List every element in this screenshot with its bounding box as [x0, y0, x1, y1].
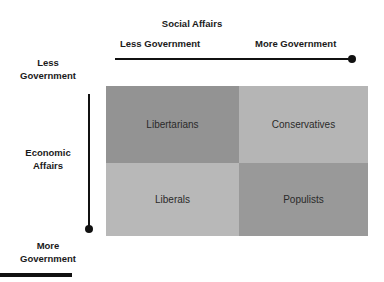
social-axis-endpoint-dot	[348, 55, 356, 63]
economic-affairs-title: Economic Affairs	[16, 146, 80, 172]
decorative-rule	[0, 273, 72, 277]
social-affairs-title: Social Affairs	[0, 17, 384, 30]
economic-less-government-line2: Government	[13, 69, 83, 82]
economic-less-government-line1: Less	[13, 56, 83, 69]
economic-more-government-line1: More	[13, 239, 83, 252]
social-axis-line	[115, 58, 352, 60]
quadrant-libertarians: Libertarians	[106, 86, 239, 163]
quadrant-populists: Populists	[239, 163, 368, 236]
economic-axis-endpoint-dot	[85, 225, 93, 233]
social-more-government-label: More Government	[255, 37, 336, 50]
quadrant-conservatives: Conservatives	[239, 86, 368, 163]
economic-affairs-title-line1: Economic	[16, 146, 80, 159]
quadrant-liberals: Liberals	[106, 163, 239, 236]
economic-axis-line	[88, 94, 90, 229]
economic-less-government-label: Less Government	[13, 56, 83, 82]
economic-affairs-title-line2: Affairs	[16, 159, 80, 172]
social-less-government-label: Less Government	[120, 37, 200, 50]
economic-more-government-label: More Government	[13, 239, 83, 265]
ideology-quadrant-grid: Libertarians Conservatives Liberals Popu…	[106, 86, 368, 236]
economic-more-government-line2: Government	[13, 252, 83, 265]
